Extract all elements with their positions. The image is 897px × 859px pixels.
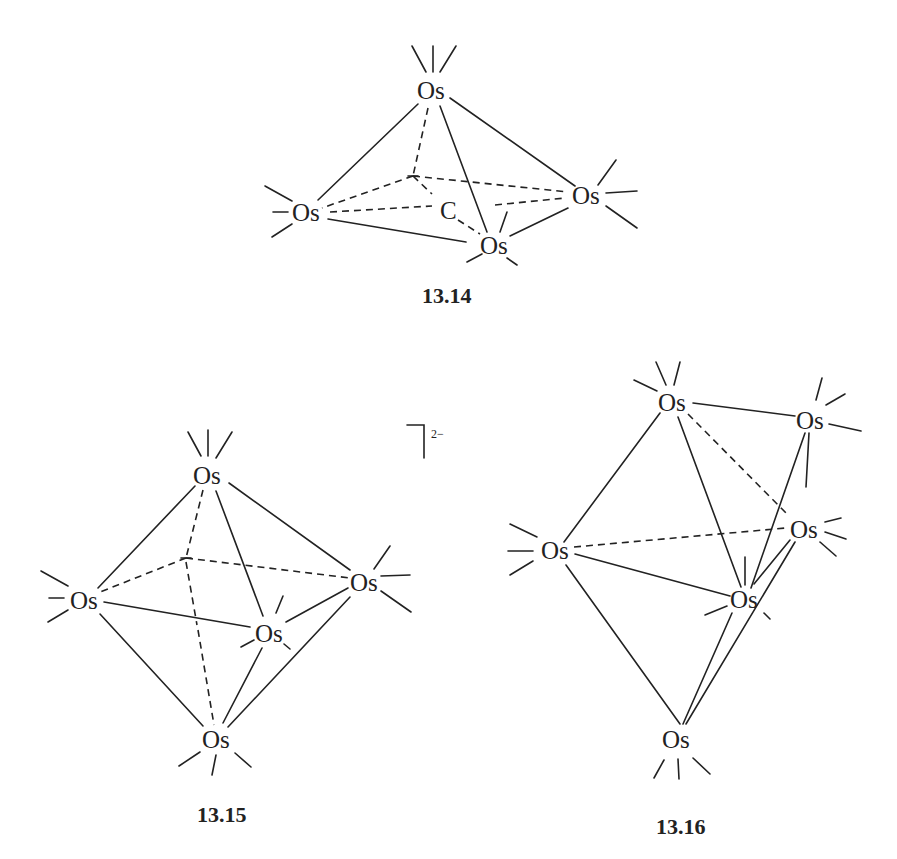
os-atom-bottom: Os — [662, 726, 690, 753]
charge-label: 2− — [431, 427, 444, 441]
os-atom-right: Os — [572, 182, 600, 209]
carbide-atom: C — [440, 197, 457, 224]
charge-bracket — [407, 425, 424, 458]
structure-13-16: Os Os Os Os Os Os 13.16 — [508, 362, 861, 839]
os-atom-left: Os — [70, 587, 98, 614]
structure-label-13-14: 13.14 — [422, 283, 472, 308]
os-atom-top: Os — [417, 77, 445, 104]
os-atom-left: Os — [292, 199, 320, 226]
structure-13-14: Os Os Os Os C 13.14 — [265, 46, 637, 308]
os-atom-top: Os — [193, 462, 221, 489]
cluster-figure: Os Os Os Os C 13.14 — [0, 0, 897, 859]
os-atom-right: Os — [790, 516, 818, 543]
os-atom-left: Os — [541, 537, 569, 564]
os-atom-right: Os — [350, 569, 378, 596]
os-atom-front: Os — [480, 232, 508, 259]
os-atom-front: Os — [255, 620, 283, 647]
os-atom-top-right: Os — [796, 407, 824, 434]
structure-13-15: Os Os Os Os Os 2− 13.15 — [41, 425, 444, 827]
structure-label-13-15: 13.15 — [197, 802, 247, 827]
os-atom-top-left: Os — [658, 389, 686, 416]
os-atom-middle: Os — [730, 586, 758, 613]
structure-label-13-16: 13.16 — [656, 814, 706, 839]
os-atom-bottom: Os — [202, 726, 230, 753]
